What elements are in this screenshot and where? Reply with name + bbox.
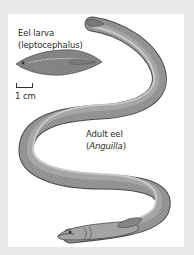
larva-label: Eel larva (leptocephalus) [18,27,83,51]
adult-label-scientific: (Anguilla) [86,140,126,152]
adult-label-name: Adult eel [86,128,126,140]
scale-label: 1 cm [15,90,36,102]
larva-drawing [16,50,102,75]
scale-bar [16,83,33,88]
adult-label: Adult eel (Anguilla) [86,128,126,152]
larva-label-name: Eel larva [18,27,83,39]
paren-close: ) [123,141,126,151]
genus-name: Anguilla [89,141,122,151]
larva-label-scientific: (leptocephalus) [18,39,83,51]
